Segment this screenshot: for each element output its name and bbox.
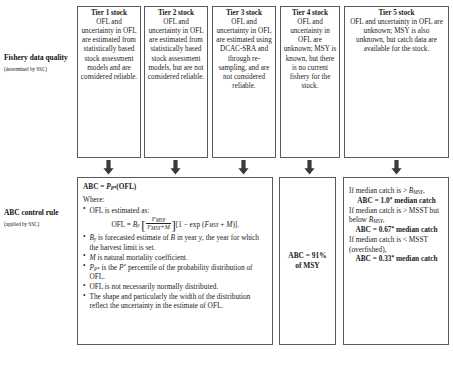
- ofl-formula: OFL = By [FMSYFMSY+M][1 − exp (FMSY + M)…: [90, 216, 268, 231]
- tier-2-box: Tier 2 stock OFL and uncertainty in OFL …: [144, 6, 208, 158]
- tier5-condition-1: If median catch is > BMSY,: [349, 186, 444, 196]
- tier5-result-3: ABC = 0.33* median catch: [349, 254, 444, 264]
- tier5-condition-2: If median catch is > MSST but below BMSY…: [349, 206, 444, 225]
- row-label-fishery-data-quality: Fishery data quality (determined by SSC): [4, 53, 70, 73]
- down-arrow-icon-tier-5: [391, 160, 402, 175]
- down-arrow-icon-tier-3: [238, 160, 249, 175]
- tier-body: OFL and uncertainty in OFL are estimated…: [80, 18, 138, 82]
- row-label-subtitle: (applied by SSC): [4, 221, 39, 227]
- down-arrow-icon-tier-2: [170, 160, 181, 175]
- abc-control-rule-flowchart: Fishery data quality (determined by SSC)…: [0, 0, 453, 368]
- bullet-m-definition: M is natural mortality coefficient.: [83, 253, 267, 262]
- row-label-title: ABC control rule: [4, 208, 58, 217]
- abc-rule-tier5-box: If median catch is > BMSY, ABC = 1.0* me…: [343, 177, 449, 345]
- tier-body: OFL and uncertainty in OFL are estimated…: [215, 18, 273, 91]
- tier-title: Tier 4 stock: [283, 9, 337, 18]
- abc-equation: ABC = PP*(OFL): [83, 182, 267, 191]
- bracket-open: [: [141, 219, 145, 234]
- down-arrow-icon-tier-4: [304, 160, 315, 175]
- bullet-ofl-distribution: OFL is not necessarily normally distribu…: [83, 282, 267, 291]
- tier-3-box: Tier 3 stock OFL and uncertainty in OFL …: [212, 6, 276, 158]
- tier-1-box: Tier 1 stock OFL and uncertainty in OFL …: [77, 6, 141, 158]
- abc-bullet-list: OFL is estimated as: OFL = By [FMSYFMSY+…: [83, 206, 267, 311]
- row-label-abc-control-rule: ABC control rule (applied by SSC): [4, 208, 70, 228]
- tier5-result-1: ABC = 1.0* median catch: [349, 196, 444, 206]
- where-label: Where:: [83, 195, 267, 204]
- tier-body: OFL and uncertainty in OFL are estimated…: [147, 18, 205, 82]
- tier-title: Tier 1 stock: [80, 9, 138, 18]
- abc-rule-tier4-box: ABC = 91% of MSY: [279, 177, 336, 345]
- tier5-condition-3: If median catch is < MSST (overfished),: [349, 235, 444, 254]
- abc-tier4-text: ABC = 91% of MSY: [288, 251, 326, 271]
- tier-body: OFL and uncertainty in OFL are unknown; …: [350, 18, 443, 54]
- tier-title: Tier 2 stock: [147, 9, 205, 18]
- bullet-by-definition: By is forecasted estimate of B in year y…: [83, 233, 267, 252]
- bullet-ofl-estimated: OFL is estimated as: OFL = By [FMSYFMSY+…: [83, 206, 267, 232]
- tier-4-box: Tier 4 stock OFL and uncertainty in OFL …: [280, 6, 340, 158]
- abc-rule-tier123-box: ABC = PP*(OFL) Where: OFL is estimated a…: [77, 177, 273, 345]
- tier-5-box: Tier 5 stock OFL and uncertainty in OFL …: [344, 6, 449, 158]
- fmsy-fraction: FMSYFMSY+M: [146, 216, 171, 231]
- bullet-p-percentile: PP* is the P* percentile of the probabil…: [83, 263, 267, 282]
- tier-title: Tier 5 stock: [350, 9, 443, 18]
- row-label-title: Fishery data quality: [4, 53, 68, 62]
- row-label-subtitle: (determined by SSC): [4, 66, 47, 72]
- tier-body: OFL and uncertainty in OFL are unknown; …: [283, 18, 337, 91]
- tier5-result-2: ABC = 0.67* median catch: [349, 225, 444, 235]
- tier-title: Tier 3 stock: [215, 9, 273, 18]
- down-arrow-icon-tier-1: [103, 160, 114, 175]
- bullet-shape-width: The shape and particularly the width of …: [83, 292, 267, 311]
